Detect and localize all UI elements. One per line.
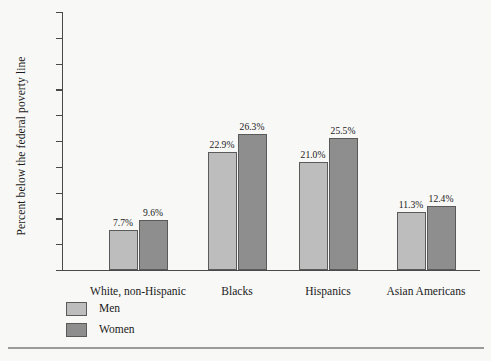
- bar-men-3: [397, 212, 426, 270]
- bar-value-label: 25.5%: [323, 126, 364, 136]
- legend-item-women: Women: [66, 321, 134, 338]
- category-label-3: Asian Americans: [356, 286, 491, 298]
- bar-value-label: 22.9%: [202, 140, 243, 150]
- y-tick-mark: [56, 218, 62, 219]
- y-tick-mark: [56, 115, 62, 116]
- y-tick-mark: [56, 193, 62, 194]
- bar-men-0: [109, 230, 138, 270]
- x-axis-line: [62, 270, 480, 271]
- bar-women-2: [329, 138, 358, 270]
- bar-men-2: [299, 162, 328, 270]
- y-tick-mark: [56, 244, 62, 245]
- footer-divider: [8, 347, 484, 349]
- legend-item-men: Men: [66, 300, 134, 317]
- bar-value-label: 21.0%: [293, 150, 334, 160]
- y-tick-mark: [56, 141, 62, 142]
- y-tick-mark: [56, 12, 62, 13]
- legend-label-women: Women: [99, 324, 134, 336]
- bar-women-0: [139, 220, 168, 270]
- y-axis-title: Percent below the federal poverty line: [15, 21, 27, 271]
- bar-value-label: 12.4%: [421, 194, 462, 204]
- y-tick-mark: [56, 89, 62, 90]
- legend-label-men: Men: [99, 303, 120, 315]
- bar-value-label: 7.7%: [103, 218, 144, 228]
- y-tick-mark: [56, 64, 62, 65]
- poverty-bar-chart: Percent below the federal poverty line 5…: [0, 0, 491, 361]
- y-tick-mark: [56, 270, 62, 271]
- chart-legend: Men Women: [66, 300, 134, 342]
- y-tick-mark: [56, 167, 62, 168]
- legend-swatch-men-icon: [66, 302, 87, 316]
- bar-value-label: 9.6%: [133, 208, 174, 218]
- bar-men-1: [208, 152, 237, 270]
- y-tick-mark: [56, 38, 62, 39]
- plot-area: 50.0%45.0%40.0%35.0%30.0%25.0%20.0%15.0%…: [62, 12, 480, 270]
- legend-swatch-women-icon: [66, 323, 87, 337]
- bar-women-1: [238, 134, 267, 270]
- bar-women-3: [427, 206, 456, 270]
- bar-value-label: 26.3%: [232, 122, 273, 132]
